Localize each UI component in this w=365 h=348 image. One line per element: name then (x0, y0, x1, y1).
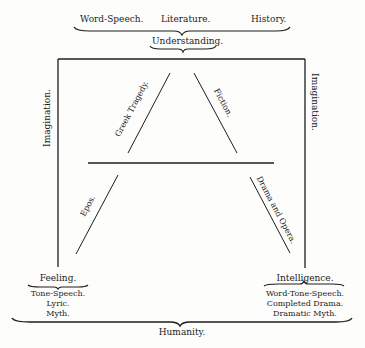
label-imagination-left: Imagination. (42, 89, 52, 147)
top-brace (74, 27, 290, 35)
label-feeling: Feeling. (40, 273, 77, 283)
label-word-speech: Word-Speech. (80, 14, 144, 24)
intelligence-item: Dramatic Myth. (273, 309, 337, 318)
label-imagination-right: Imagination. (310, 73, 320, 131)
label-humanity: Humanity. (159, 327, 206, 337)
label-fiction: Fiction. (212, 87, 234, 118)
feeling-item: Myth. (46, 309, 70, 318)
label-literature: Literature. (161, 14, 211, 24)
label-history: History. (251, 14, 287, 24)
understanding-brace (150, 46, 216, 52)
art-forms-diagram: Word-Speech. Literature. History. Unders… (0, 0, 365, 348)
intelligence-item: Word-Tone-Speech. (266, 289, 344, 298)
humanity-brace (12, 318, 352, 326)
label-drama-opera: Drama and Opera. (255, 175, 298, 245)
label-intelligence: Intelligence. (276, 273, 333, 283)
feeling-item: Tone-Speech. (31, 289, 85, 298)
intelligence-item: Completed Drama. (267, 299, 343, 308)
label-understanding: Understanding. (152, 36, 223, 46)
feeling-item: Lyric. (46, 299, 69, 308)
label-epos: Epos. (79, 194, 97, 218)
diagram-page: Word-Speech. Literature. History. Unders… (0, 0, 365, 348)
label-greek-tragedy: Greek Tragedy. (113, 79, 150, 138)
